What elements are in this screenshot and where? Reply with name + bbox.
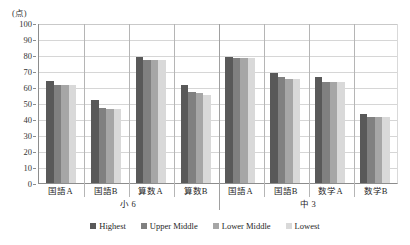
y-axis-tick-mark bbox=[33, 104, 36, 105]
bar-group bbox=[352, 24, 397, 183]
y-axis-tick-mark bbox=[33, 24, 36, 25]
y-axis-tick-mark bbox=[33, 56, 36, 57]
bar bbox=[233, 58, 241, 183]
bar bbox=[270, 73, 278, 183]
bar bbox=[293, 79, 301, 183]
y-axis-tick-labels: 0102030405060708090100 bbox=[0, 24, 36, 184]
legend-item[interactable]: Lowest bbox=[286, 221, 320, 231]
bar-group bbox=[218, 24, 263, 183]
y-axis-tick-label: 90 bbox=[24, 36, 33, 45]
bar bbox=[337, 82, 345, 183]
y-axis-tick-label: 40 bbox=[24, 116, 33, 125]
bar bbox=[143, 60, 151, 183]
legend-swatch-icon bbox=[90, 223, 96, 229]
category-separator bbox=[174, 24, 175, 197]
x-axis-category-label: 国語B bbox=[263, 185, 308, 199]
bar bbox=[188, 92, 196, 183]
bar-series-container bbox=[39, 24, 397, 183]
category-separator bbox=[309, 24, 310, 197]
x-axis-category-labels: 国語A国語B算数A算数B国語A国語B数学A数学B bbox=[38, 185, 398, 199]
x-axis-category-label: 国語A bbox=[218, 185, 263, 199]
x-axis-category-label: 国語B bbox=[83, 185, 128, 199]
legend-label: Lower Middle bbox=[222, 221, 271, 231]
legend-swatch-icon bbox=[141, 223, 147, 229]
legend-label: Upper Middle bbox=[150, 221, 198, 231]
y-axis-tick-mark bbox=[33, 168, 36, 169]
x-axis-category-label: 算数B bbox=[173, 185, 218, 199]
bar bbox=[136, 57, 144, 183]
bar bbox=[315, 77, 323, 183]
bar bbox=[285, 79, 293, 183]
category-separator bbox=[84, 24, 85, 197]
plot-area bbox=[38, 24, 398, 184]
legend-swatch-icon bbox=[213, 223, 219, 229]
bar bbox=[225, 57, 233, 183]
y-axis-unit-label: (点) bbox=[12, 8, 27, 18]
bar bbox=[181, 85, 189, 183]
x-axis-category-label: 数学B bbox=[353, 185, 398, 199]
y-axis-tick-mark bbox=[33, 40, 36, 41]
bar-group bbox=[39, 24, 84, 183]
bar bbox=[240, 58, 248, 183]
legend-item[interactable]: Highest bbox=[90, 221, 125, 231]
y-axis-tick-label: 80 bbox=[24, 52, 33, 61]
bar-group bbox=[84, 24, 129, 183]
bar bbox=[360, 114, 368, 183]
x-axis-category-label: 算数A bbox=[128, 185, 173, 199]
bar bbox=[322, 82, 330, 183]
bar-group bbox=[129, 24, 174, 183]
group-separator bbox=[219, 24, 220, 210]
y-axis-tick-label: 10 bbox=[24, 164, 33, 173]
bar bbox=[330, 82, 338, 183]
y-axis-tick-label: 30 bbox=[24, 132, 33, 141]
bar bbox=[248, 58, 256, 183]
bar bbox=[46, 81, 54, 183]
y-axis-tick-mark bbox=[33, 120, 36, 121]
bar-group bbox=[173, 24, 218, 183]
x-axis-category-label: 国語A bbox=[38, 185, 83, 199]
category-separator bbox=[129, 24, 130, 197]
y-axis-tick-mark bbox=[33, 136, 36, 137]
bar bbox=[367, 117, 375, 183]
y-axis-tick-label: 50 bbox=[24, 100, 33, 109]
legend-swatch-icon bbox=[286, 223, 292, 229]
y-axis-tick-mark bbox=[33, 152, 36, 153]
legend-item[interactable]: Upper Middle bbox=[141, 221, 198, 231]
y-axis-tick-label: 100 bbox=[19, 20, 32, 29]
bar bbox=[382, 117, 390, 183]
bar bbox=[54, 85, 62, 183]
bar bbox=[99, 108, 107, 183]
x-axis-category-label: 数学A bbox=[308, 185, 353, 199]
legend-label: Lowest bbox=[295, 221, 320, 231]
bar bbox=[106, 109, 114, 183]
bar bbox=[61, 85, 69, 183]
bar bbox=[203, 95, 211, 183]
bar bbox=[151, 60, 159, 183]
legend-label: Highest bbox=[99, 221, 125, 231]
y-axis-tick-label: 70 bbox=[24, 68, 33, 77]
chart-legend: HighestUpper MiddleLower MiddleLowest bbox=[0, 221, 410, 231]
bar-group bbox=[263, 24, 308, 183]
bar bbox=[91, 100, 99, 183]
x-axis-group-label: 小 6 bbox=[38, 198, 218, 212]
bar bbox=[278, 77, 286, 183]
legend-item[interactable]: Lower Middle bbox=[213, 221, 271, 231]
y-axis-tick-label: 0 bbox=[28, 180, 32, 189]
y-axis-tick-mark bbox=[33, 72, 36, 73]
category-separator bbox=[354, 24, 355, 197]
y-axis-tick-label: 20 bbox=[24, 148, 33, 157]
bar bbox=[69, 85, 77, 183]
y-axis-tick-mark bbox=[33, 184, 36, 185]
y-axis-tick-mark bbox=[33, 88, 36, 89]
x-axis-group-labels: 小 6中 3 bbox=[38, 198, 398, 212]
bar bbox=[158, 60, 166, 183]
bar-chart: (点) 0102030405060708090100 国語A国語B算数A算数B国… bbox=[0, 0, 410, 245]
x-axis-group-label: 中 3 bbox=[218, 198, 398, 212]
y-axis-tick-label: 60 bbox=[24, 84, 33, 93]
bar bbox=[114, 109, 122, 183]
bar bbox=[196, 93, 204, 183]
bar-group bbox=[308, 24, 353, 183]
bar bbox=[375, 117, 383, 183]
category-separator bbox=[264, 24, 265, 197]
